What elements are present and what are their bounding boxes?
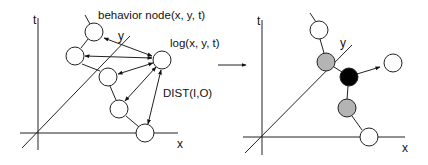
behavior-node xyxy=(110,100,128,118)
x-axis-label: x xyxy=(402,141,408,155)
y-axis-label: y xyxy=(340,36,346,50)
left-panel xyxy=(20,15,178,150)
node-gray xyxy=(317,53,335,71)
node-white xyxy=(310,21,328,39)
log-label: log(x, y, t) xyxy=(170,37,220,49)
node-white xyxy=(360,128,378,146)
behavior-node xyxy=(99,68,117,86)
node-white-predicted xyxy=(384,54,402,72)
behavior-node-label: behavior node(x, y, t) xyxy=(98,9,205,21)
right-panel xyxy=(243,13,405,155)
node-black xyxy=(340,68,358,86)
log-node xyxy=(153,51,171,69)
node-gray xyxy=(338,99,356,117)
diagram-canvas: t x y behavior node(x, y, t) log(x, y, t… xyxy=(0,0,428,165)
behavior-node xyxy=(66,47,84,65)
dist-label: DIST(I,O) xyxy=(163,87,212,99)
behavior-node xyxy=(136,124,154,142)
behavior-node xyxy=(85,23,103,41)
t-axis-label: t xyxy=(257,14,261,28)
y-axis-label: y xyxy=(118,29,124,43)
t-axis-label: t xyxy=(33,13,37,27)
x-axis-label: x xyxy=(177,137,183,151)
